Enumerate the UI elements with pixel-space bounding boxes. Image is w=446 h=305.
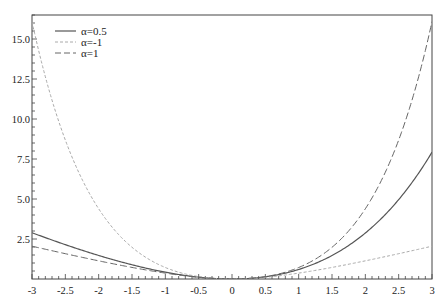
x-tick-label: -2 <box>94 285 103 296</box>
legend-label-alpha-1: α=1 <box>81 47 98 59</box>
x-tick-label: -1.5 <box>124 285 141 296</box>
x-tick-label: -3 <box>28 285 37 296</box>
line-chart: -3-2.5-2-1.5-1-0.500.511.522.53 2.55.07.… <box>0 0 446 305</box>
x-tick-label: -0.5 <box>190 285 207 296</box>
x-tick-label: 2.5 <box>392 285 405 296</box>
x-tick-label: 0 <box>229 285 234 296</box>
x-tick-label: 2 <box>363 285 368 296</box>
y-tick-label: 15.0 <box>12 34 30 45</box>
y-tick-label: 2.5 <box>17 234 30 245</box>
x-axis: -3-2.5-2-1.5-1-0.500.511.522.53 <box>28 274 435 296</box>
y-tick-label: 10.0 <box>12 114 30 125</box>
y-tick-label: 12.5 <box>12 74 30 85</box>
series-line-0 <box>32 152 432 279</box>
plot-series <box>32 22 432 279</box>
series-line-2 <box>32 22 432 279</box>
legend: α=0.5 α=-1 α=1 <box>55 25 107 59</box>
x-tick-label: -2.5 <box>57 285 74 296</box>
x-tick-label: 0.5 <box>259 285 272 296</box>
y-tick-label: 5.0 <box>17 194 30 205</box>
x-tick-label: 1 <box>296 285 301 296</box>
x-tick-label: 1.5 <box>325 285 338 296</box>
x-tick-label: -1 <box>161 285 170 296</box>
series-line-1 <box>32 22 432 279</box>
y-tick-label: 7.5 <box>17 154 30 165</box>
x-tick-label: 3 <box>429 285 434 296</box>
